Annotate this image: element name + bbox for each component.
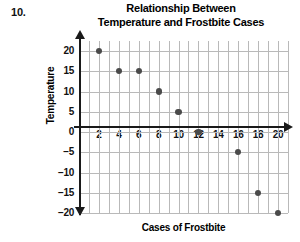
y-axis-tick-label: −10 [58,168,74,178]
y-axis-tick-label: 15 [63,66,74,76]
chart-title: Relationship Between Temperature and Fro… [66,2,296,29]
problem-number: 10. [11,6,26,18]
data-point [156,88,162,94]
gridline-horizontal [79,71,288,72]
data-point [235,149,241,155]
x-axis-arrow-icon [284,122,293,132]
data-point [275,210,281,216]
data-point [255,190,261,196]
y-axis-tick-label: −20 [58,208,74,218]
y-axis-tick-label: −15 [58,188,74,198]
y-axis-arrow-up-icon [75,30,85,39]
data-point [96,48,102,54]
gridline-horizontal [79,92,288,93]
y-axis-tick-label: −5 [63,147,74,157]
gridline-horizontal [79,152,288,153]
gridline-horizontal [79,51,288,52]
y-axis-title: Temperature [45,41,56,151]
y-axis-tick-label: 5 [69,107,74,117]
y-axis-line [79,38,81,215]
y-axis-arrow-down-icon [75,207,85,216]
gridline-horizontal [79,173,288,174]
gridline-horizontal [79,132,288,133]
scatter-plot-area [79,41,288,213]
y-axis-tick-label: 10 [63,87,74,97]
worksheet-page: 10. Relationship Between Temperature and… [0,0,300,242]
data-point [195,129,201,135]
data-point [175,109,181,115]
data-point [116,68,122,74]
y-axis-tick-label: 20 [63,46,74,56]
x-axis-line [74,126,285,128]
x-axis-title: Cases of Frostbite [79,222,288,233]
gridline-horizontal [79,213,288,214]
gridline-horizontal [79,112,288,113]
chart-title-line-2: Temperature and Frostbite Cases [66,16,296,30]
chart-title-line-1: Relationship Between [66,2,296,16]
y-axis-tick-label: 0 [69,127,74,137]
data-point [136,68,142,74]
